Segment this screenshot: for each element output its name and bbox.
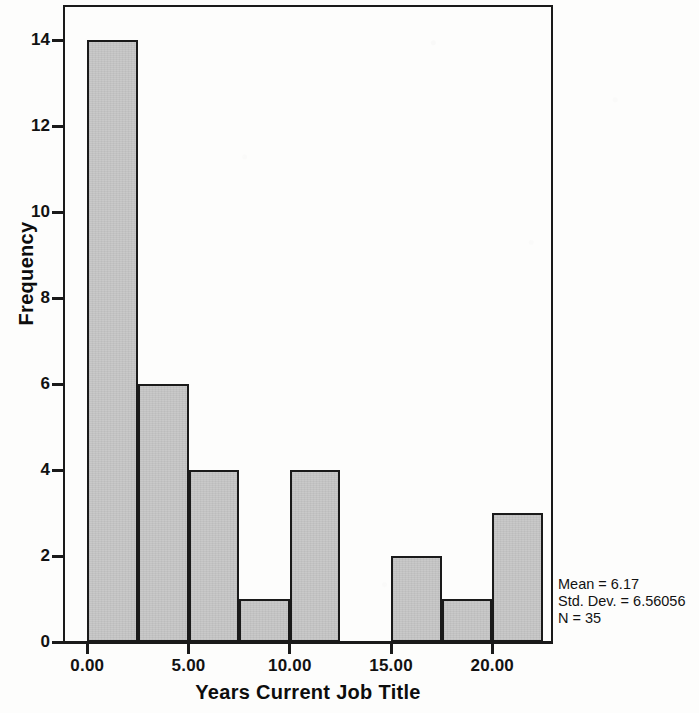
stat-std-dev: Std. Dev. = 6.56056 bbox=[558, 593, 686, 610]
plot-area bbox=[63, 5, 553, 642]
x-axis-tick-label: 5.00 bbox=[172, 656, 206, 676]
y-axis-tick-label: 4 bbox=[26, 460, 50, 480]
y-axis-tick bbox=[52, 555, 63, 558]
y-axis-tick bbox=[52, 125, 63, 128]
histogram-bar bbox=[442, 599, 493, 642]
x-axis-tick-label: 20.00 bbox=[470, 656, 514, 676]
y-axis-tick-label: 14 bbox=[26, 30, 50, 50]
histogram-bar bbox=[239, 599, 290, 642]
y-axis-tick-label: 2 bbox=[26, 546, 50, 566]
histogram-figure: 0.005.0010.0015.0020.00 02468101214 Year… bbox=[0, 0, 699, 713]
x-axis-tick bbox=[187, 643, 190, 654]
x-axis-tick-label: 0.00 bbox=[70, 656, 104, 676]
y-axis-tick bbox=[52, 641, 63, 644]
x-axis-title: Years Current Job Title bbox=[63, 681, 553, 704]
y-axis-tick-label: 12 bbox=[26, 116, 50, 136]
y-axis-tick-label: 0 bbox=[26, 632, 50, 652]
y-axis-title: Frequency bbox=[15, 194, 38, 354]
y-axis-tick bbox=[52, 211, 63, 214]
x-axis-tick bbox=[288, 643, 291, 654]
y-axis-tick bbox=[52, 469, 63, 472]
stat-n: N = 35 bbox=[558, 610, 686, 627]
y-axis-tick bbox=[52, 297, 63, 300]
x-axis-tick-label: 10.00 bbox=[268, 656, 312, 676]
histogram-bar bbox=[290, 470, 341, 642]
y-axis-tick bbox=[52, 39, 63, 42]
stat-mean: Mean = 6.17 bbox=[558, 576, 686, 593]
x-axis-tick-label: 15.00 bbox=[369, 656, 413, 676]
histogram-bar bbox=[391, 556, 442, 642]
y-axis-tick bbox=[52, 383, 63, 386]
y-axis-tick-label: 6 bbox=[26, 374, 50, 394]
histogram-bar bbox=[138, 384, 189, 642]
x-axis-tick bbox=[86, 643, 89, 654]
histogram-bar bbox=[87, 40, 138, 642]
x-axis-tick bbox=[390, 643, 393, 654]
histogram-bar bbox=[189, 470, 240, 642]
histogram-bar bbox=[492, 513, 543, 642]
x-axis-tick bbox=[491, 643, 494, 654]
statistics-annotation: Mean = 6.17 Std. Dev. = 6.56056 N = 35 bbox=[558, 576, 686, 627]
